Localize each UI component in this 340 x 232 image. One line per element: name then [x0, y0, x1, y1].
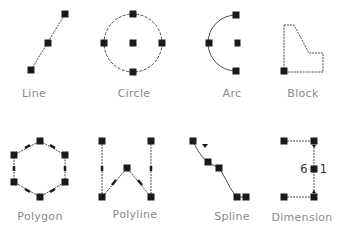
shape-tools-canvas	[0, 0, 340, 232]
circle-icon[interactable]	[101, 11, 166, 76]
spline-icon[interactable]	[190, 138, 250, 201]
label-polygon: Polygon	[17, 210, 62, 223]
block-icon[interactable]	[281, 25, 324, 75]
dimension-value: 6.1	[300, 162, 331, 176]
arc-icon[interactable]	[206, 12, 241, 75]
line-icon[interactable]	[28, 11, 69, 74]
label-spline: Spline	[214, 210, 250, 223]
label-arc: Arc	[223, 87, 242, 100]
label-dimension: Dimension	[271, 211, 332, 224]
label-circle: Circle	[118, 87, 151, 100]
polygon-icon[interactable]	[11, 138, 69, 201]
label-block: Block	[287, 87, 318, 100]
spline-marker-icon	[202, 144, 208, 148]
label-polyline: Polyline	[113, 208, 158, 221]
polyline-icon[interactable]	[99, 138, 155, 201]
label-line: Line	[22, 87, 46, 100]
